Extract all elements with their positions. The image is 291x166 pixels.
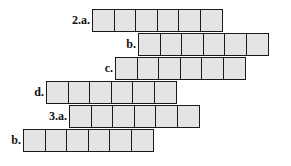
letter-cell[interactable]: [203, 33, 226, 56]
letter-cell[interactable]: [181, 33, 204, 56]
letter-cell[interactable]: [177, 105, 200, 128]
letter-cell[interactable]: [137, 57, 160, 80]
answer-row: [138, 33, 267, 56]
letter-cell[interactable]: [132, 81, 155, 104]
letter-cell[interactable]: [158, 57, 181, 80]
letter-cell[interactable]: [157, 9, 180, 32]
letter-cell[interactable]: [45, 129, 68, 152]
row-label: c.: [73, 57, 113, 80]
letter-cell[interactable]: [109, 129, 132, 152]
letter-cell[interactable]: [91, 105, 114, 128]
answer-row: [92, 9, 221, 32]
row-label: 2.a.: [50, 9, 90, 32]
row-label: b.: [0, 129, 21, 152]
answer-row: [46, 81, 175, 104]
letter-cell[interactable]: [154, 81, 177, 104]
letter-cell[interactable]: [46, 81, 69, 104]
letter-cell[interactable]: [111, 81, 134, 104]
letter-cell[interactable]: [115, 57, 138, 80]
letter-cell[interactable]: [223, 57, 246, 80]
letter-cell[interactable]: [138, 33, 161, 56]
row-label: b.: [96, 33, 136, 56]
letter-cell[interactable]: [178, 9, 201, 32]
answer-row: [69, 105, 198, 128]
letter-cell[interactable]: [180, 57, 203, 80]
letter-cell[interactable]: [89, 81, 112, 104]
answer-row: [115, 57, 244, 80]
letter-cell[interactable]: [68, 81, 91, 104]
row-label: 3.a.: [27, 105, 67, 128]
letter-cell[interactable]: [201, 57, 224, 80]
letter-cell[interactable]: [134, 105, 157, 128]
letter-cell[interactable]: [131, 129, 154, 152]
letter-cell[interactable]: [88, 129, 111, 152]
answer-row: [23, 129, 152, 152]
letter-cell[interactable]: [155, 105, 178, 128]
letter-cell[interactable]: [112, 105, 135, 128]
letter-cell[interactable]: [224, 33, 247, 56]
letter-cell[interactable]: [114, 9, 137, 32]
letter-cell[interactable]: [160, 33, 183, 56]
letter-cell[interactable]: [23, 129, 46, 152]
letter-cell[interactable]: [200, 9, 223, 32]
letter-cell[interactable]: [92, 9, 115, 32]
letter-cell[interactable]: [135, 9, 158, 32]
letter-cell[interactable]: [69, 105, 92, 128]
letter-cell[interactable]: [246, 33, 269, 56]
row-label: d.: [4, 81, 44, 104]
letter-cell[interactable]: [66, 129, 89, 152]
